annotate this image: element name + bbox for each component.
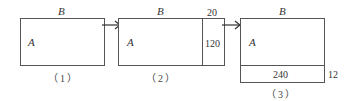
- panel-1-top-label: B: [58, 6, 65, 17]
- panel-1-caption: （1）: [48, 70, 79, 85]
- panel-2-inner-label: A: [127, 37, 134, 48]
- panel-3-caption: （3）: [266, 86, 297, 101]
- panel-2-strip-width-label: 20: [207, 7, 217, 18]
- panel-3-strip-length-label: 240: [273, 69, 288, 80]
- panel-2-strip-height-label: 120: [205, 38, 220, 49]
- panel-3-inner-label: A: [249, 37, 256, 48]
- panel-2-caption: （2）: [146, 70, 177, 85]
- panel-2-top-label: B: [157, 6, 164, 17]
- panel-1-inner-label: A: [28, 37, 35, 48]
- arrow-right-icon: [222, 20, 242, 30]
- panel-3-top-label: B: [279, 6, 286, 17]
- panel-3-strip-height-label: 12: [328, 69, 338, 80]
